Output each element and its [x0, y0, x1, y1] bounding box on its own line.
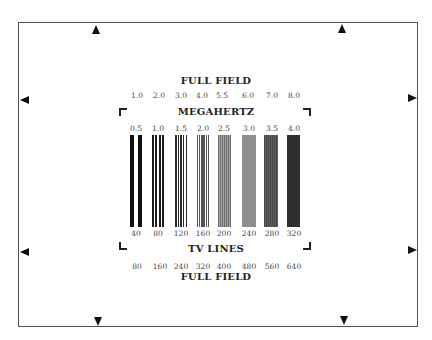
- bar-group-3-0mhz: [242, 135, 256, 227]
- mhz-label: 1.0: [131, 91, 143, 100]
- bar-group-3-5mhz: [264, 135, 278, 227]
- mhz-label: 3.0: [243, 124, 255, 133]
- registration-triangle-top-right-icon: [338, 24, 346, 33]
- mhz-label: 7.0: [266, 91, 278, 100]
- mhz-label: 5.5: [216, 91, 228, 100]
- mhz-label: 4.0: [288, 124, 300, 133]
- bar-group-4-0mhz: [287, 135, 300, 227]
- tv-lines-label: 80: [132, 262, 142, 271]
- tv-lines-label: 320: [287, 229, 301, 238]
- tv-lines-label: 560: [265, 262, 279, 271]
- tv-lines-label: 160: [153, 262, 167, 271]
- bottom-full-field-title: FULL FIELD: [0, 271, 432, 282]
- center-mhz-row: 0.5 1.0 1.5 2.0 2.5 3.0 3.5 4.0: [0, 124, 432, 134]
- bar-group-0-5mhz: [130, 135, 142, 227]
- center-tv-lines-row: 40 80 120 160 200 240 280 320: [0, 229, 432, 239]
- bar-group-1-0mhz: [152, 135, 164, 227]
- mhz-label: 0.5: [130, 124, 142, 133]
- tv-lines-label: 240: [242, 229, 256, 238]
- tv-lines-label: 200: [217, 229, 231, 238]
- mhz-label: 1.5: [175, 124, 187, 133]
- tv-lines-title: TV LINES: [0, 243, 432, 254]
- mhz-label: 8.0: [288, 91, 300, 100]
- registration-triangle-bottom-left-icon: [94, 317, 102, 326]
- registration-triangle-bottom-right-icon: [340, 316, 348, 325]
- megahertz-title: MEGAHERTZ: [0, 106, 432, 117]
- tv-lines-label: 40: [131, 229, 141, 238]
- tv-lines-label: 280: [265, 229, 279, 238]
- tv-lines-label: 80: [153, 229, 163, 238]
- mhz-label: 3.0: [175, 91, 187, 100]
- mhz-label: 1.0: [152, 124, 164, 133]
- mhz-label: 4.0: [196, 91, 208, 100]
- tv-lines-label: 320: [196, 262, 210, 271]
- bar-group-2-5mhz: [218, 135, 231, 227]
- tv-lines-label: 640: [287, 262, 301, 271]
- tv-lines-label: 400: [217, 262, 231, 271]
- registration-triangle-top-left-icon: [92, 25, 100, 34]
- bar-group-2-0mhz: [197, 135, 209, 227]
- mhz-label: 6.0: [242, 91, 254, 100]
- corner-bracket-top-right-icon: [303, 108, 311, 116]
- tv-lines-label: 120: [174, 229, 188, 238]
- full-field-mhz-row: 1.0 2.0 3.0 4.0 5.5 6.0 7.0 8.0: [0, 91, 432, 101]
- bar-group-1-5mhz: [175, 135, 187, 227]
- mhz-label: 2.0: [197, 124, 209, 133]
- tv-lines-label: 480: [242, 262, 256, 271]
- mhz-label: 3.5: [266, 124, 278, 133]
- tv-lines-label: 240: [174, 262, 188, 271]
- mhz-label: 2.0: [153, 91, 165, 100]
- corner-bracket-top-left-icon: [119, 108, 127, 116]
- tv-lines-label: 160: [196, 229, 210, 238]
- top-full-field-title: FULL FIELD: [0, 75, 432, 86]
- mhz-label: 2.5: [218, 124, 230, 133]
